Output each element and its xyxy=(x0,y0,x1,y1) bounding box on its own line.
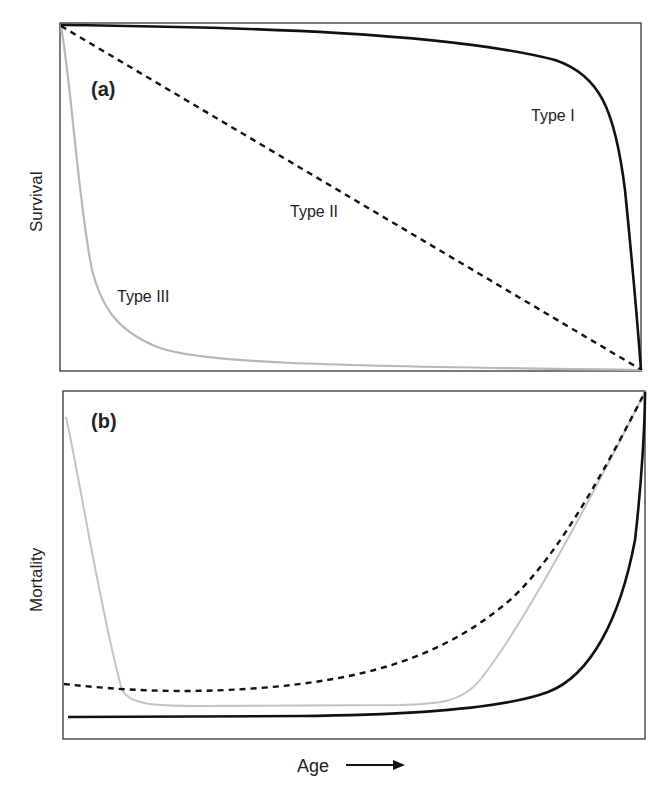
panel-b-label: (b) xyxy=(91,410,117,432)
panel-a-label: (a) xyxy=(91,78,115,100)
type3-annotation: Type III xyxy=(117,288,169,305)
panel-b-type2-curve xyxy=(64,392,645,691)
age-axis-label: Age xyxy=(297,756,329,776)
panel-a-type2-curve xyxy=(61,26,640,369)
type2-annotation: Type II xyxy=(290,203,338,220)
survival-axis-label: Survival xyxy=(27,172,46,232)
panel-b: (b) Mortality xyxy=(27,391,645,739)
age-axis: Age xyxy=(297,756,405,776)
mortality-axis-label: Mortality xyxy=(27,547,46,612)
type1-annotation: Type I xyxy=(531,107,575,124)
panel-b-type3-curve xyxy=(66,392,645,706)
panel-a: (a) Type I Type II Type III Survival xyxy=(27,23,641,371)
survivorship-figure: (a) Type I Type II Type III Survival (b)… xyxy=(0,0,668,791)
right-arrow-icon xyxy=(393,760,405,770)
